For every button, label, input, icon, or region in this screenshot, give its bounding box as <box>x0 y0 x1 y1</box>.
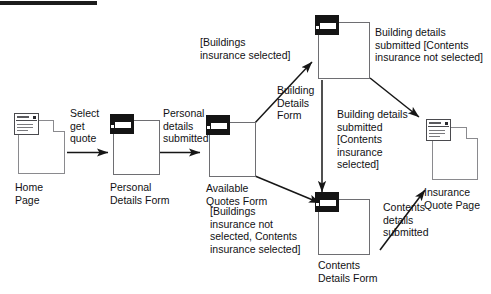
edge-label-building-submitted-contents-not-selected: Building details submitted [Contents ins… <box>375 26 491 64</box>
node-label-building-details-form: Building Details Form <box>277 84 323 122</box>
page-fold-corner <box>53 120 65 132</box>
edge-label-select-get-quote: Select get quote <box>70 107 116 145</box>
form-window-icon <box>315 15 339 35</box>
browser-window-icon <box>426 119 451 141</box>
scan-artifact-bar <box>0 1 97 5</box>
edge-label-contents-details-submitted: Contents details submitted <box>383 201 447 239</box>
edge-label-buildings-not-selected-contents-selected: [Buildings insurance not selected, Conte… <box>210 205 322 255</box>
edge-label-personal-details-submitted: Personal details submitted <box>163 107 219 145</box>
page-fold-corner <box>466 127 478 139</box>
edge-label-building-submitted-contents-selected: Building details submitted [Contents ins… <box>337 108 421 171</box>
node-label-home-page: Home Page <box>15 181 87 206</box>
node-label-available-quotes-form: Available Quotes Form <box>206 182 292 207</box>
browser-window-icon <box>14 113 39 135</box>
edge-label-buildings-insurance-selected: [Buildings insurance selected] <box>200 36 324 61</box>
navigation-flow-diagram: Home Page Personal Details Form Availabl… <box>0 0 491 294</box>
node-label-personal-details-form: Personal Details Form <box>110 181 194 206</box>
node-label-contents-details-form: Contents Details Form <box>318 259 408 284</box>
